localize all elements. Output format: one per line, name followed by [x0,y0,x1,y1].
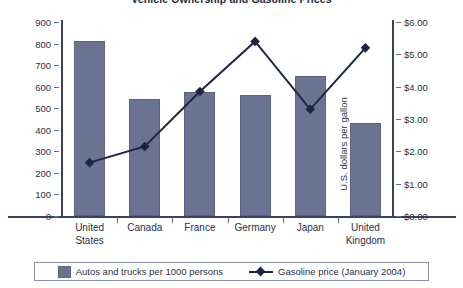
category-labels: UnitedStatesCanadaFranceGermanyJapanUnit… [62,222,393,262]
legend-item-line: Gasoline price (January 2004) [249,266,405,277]
legend-bar-swatch-icon [58,266,71,278]
category-label: Germany [224,222,286,235]
left-tick [54,151,59,152]
category-label: Japan [279,222,341,235]
right-tick-label: $3.00 [404,114,428,125]
legend-line-marker-icon [249,267,273,277]
right-tick-label: $5.00 [404,49,428,60]
left-tick [54,173,59,174]
bar [295,76,326,216]
bar [184,92,215,216]
right-tick-label: $6.00 [404,17,428,28]
legend-line-label: Gasoline price (January 2004) [278,266,405,277]
bar [129,99,160,216]
right-tick [396,151,401,152]
left-tick [54,130,59,131]
left-tick-label: 600 [35,81,51,92]
line-series [62,22,393,216]
bar [350,123,381,216]
left-tick-label: 100 [35,189,51,200]
right-tick-label: $2.00 [404,146,428,157]
right-tick-label: $0.00 [404,211,428,222]
left-tick [54,87,59,88]
chart-container: Vehicle Ownership and Gasoline Prices Ve… [0,0,463,288]
chart-legend: Autos and trucks per 1000 persons Gasoli… [34,262,429,281]
plot-area: 0100200300400500600700800900 $0.00$1.00$… [62,22,393,216]
line-marker [361,43,371,53]
bar [74,41,105,216]
category-label: UnitedKingdom [334,222,396,247]
category-label: Canada [114,222,176,235]
left-tick [54,44,59,45]
category-label: France [169,222,231,235]
left-tick [54,108,59,109]
left-tick [54,194,59,195]
bar [240,95,271,216]
left-tick-label: 200 [35,167,51,178]
right-tick [396,119,401,120]
left-tick-label: 500 [35,103,51,114]
right-tick [396,87,401,88]
category-label: UnitedStates [59,222,121,247]
left-tick-label: 400 [35,124,51,135]
left-tick-label: 700 [35,60,51,71]
right-tick [396,54,401,55]
right-tick-label: $1.00 [404,178,428,189]
legend-item-bars: Autos and trucks per 1000 persons [58,266,223,278]
left-tick-label: 0 [46,211,51,222]
right-tick-label: $4.00 [404,81,428,92]
left-tick-label: 900 [35,17,51,28]
left-tick-label: 800 [35,38,51,49]
right-tick [396,22,401,23]
line-marker [250,37,260,47]
right-tick [396,184,401,185]
right-tick [396,216,401,217]
left-tick [54,65,59,66]
chart-title: Vehicle Ownership and Gasoline Prices [0,0,463,5]
left-tick [54,216,59,217]
legend-bar-label: Autos and trucks per 1000 persons [76,266,223,277]
bottom-axis-line [8,216,456,218]
left-tick-label: 300 [35,146,51,157]
left-tick [54,22,59,23]
